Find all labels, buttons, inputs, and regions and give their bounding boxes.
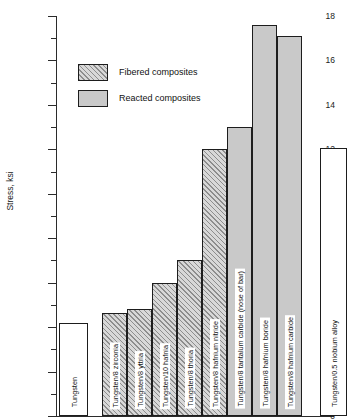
legend-swatch-fibered xyxy=(78,64,108,81)
bar-8[interactable]: Tungsten/8 hafnium carbide xyxy=(277,36,302,416)
y-axis-title: Stress, ksi xyxy=(5,161,15,221)
legend-item-fibered[interactable]: Fibered composites xyxy=(78,62,201,82)
bar-6[interactable]: Tungsten/8 tantalum carbide (nose of bar… xyxy=(227,127,252,416)
bar-7[interactable]: Tungsten/8 hafnium boride xyxy=(252,25,277,416)
bar-label: Tungsten/8 hafnium carbide xyxy=(285,315,295,409)
legend-swatch-reacted xyxy=(78,90,108,107)
bar-label: Tungsten/10 hafnia xyxy=(160,343,170,409)
y-tick-major xyxy=(48,60,56,61)
x-axis-line xyxy=(56,416,334,417)
bar-label: Tungsten/0.5 niobium alloy xyxy=(329,318,339,409)
bar-label: Tungsten/8 thoria xyxy=(185,348,195,409)
bar-2[interactable]: Tungsten/8 yttria xyxy=(127,309,152,416)
y-tick-major xyxy=(48,327,56,328)
y-tick-major xyxy=(48,283,56,284)
y-tick-major xyxy=(48,194,56,195)
legend-item-reacted[interactable]: Reacted composites xyxy=(78,88,201,108)
bar-0[interactable]: Tungsten xyxy=(59,323,88,416)
bar-label: Tungsten/8 hafnium nitride xyxy=(210,319,220,409)
bar-9[interactable]: Tungsten/0.5 niobium alloy xyxy=(320,148,347,416)
bar-label: Tungsten/8 zirconia xyxy=(110,342,120,409)
bar-label: Tungsten/8 yttria xyxy=(135,351,145,409)
chart-legend: Fibered compositesReacted composites xyxy=(78,62,201,114)
bar-4[interactable]: Tungsten/8 thoria xyxy=(177,260,202,416)
y-tick-major xyxy=(48,105,56,106)
y-tick-major xyxy=(48,372,56,373)
legend-label: Fibered composites xyxy=(119,67,198,77)
bar-1[interactable]: Tungsten/8 zirconia xyxy=(102,313,127,416)
bar-label: Tungsten/8 tantalum carbide (nose of bar… xyxy=(235,269,245,409)
bar-label: Tungsten/8 hafnium boride xyxy=(260,318,270,409)
y-tick-major xyxy=(48,238,56,239)
y-tick-major xyxy=(48,416,56,417)
bar-3[interactable]: Tungsten/10 hafnia xyxy=(152,283,177,416)
y-tick-major xyxy=(48,149,56,150)
bar-label: Tungsten xyxy=(69,375,79,409)
y-tick-major xyxy=(48,16,56,17)
legend-label: Reacted composites xyxy=(119,93,201,103)
bar-5[interactable]: Tungsten/8 hafnium nitride xyxy=(202,149,227,416)
